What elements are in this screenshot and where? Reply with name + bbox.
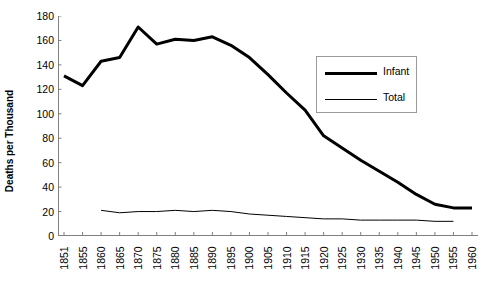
x-axis-tick-label-text: 1945 bbox=[410, 246, 422, 269]
x-axis-tick-label: 1910 bbox=[281, 238, 293, 282]
x-axis-tick-label-text: 1870 bbox=[132, 246, 144, 269]
x-axis-tick-label: 1935 bbox=[373, 238, 385, 282]
x-axis-tick-label-text: 1920 bbox=[318, 246, 330, 269]
y-axis-tick-label: 100 bbox=[26, 109, 54, 119]
legend-swatch-infant-icon bbox=[325, 72, 377, 75]
legend-item-total: Total bbox=[317, 87, 418, 111]
x-axis-tick-label-text: 1900 bbox=[243, 246, 255, 269]
y-axis-tick-label: 160 bbox=[26, 35, 54, 45]
x-axis-tick-label: 1925 bbox=[336, 238, 348, 282]
legend-item-infant: Infant bbox=[317, 61, 418, 85]
x-axis-tick-labels: 1851185518601865187018751880188518901895… bbox=[0, 238, 489, 282]
line-chart: Deaths per Thousand 02040608010012014016… bbox=[0, 0, 489, 282]
x-axis-tick-label-text: 1940 bbox=[392, 246, 404, 269]
x-axis-tick-label: 1930 bbox=[355, 238, 367, 282]
x-axis-tick-label: 1851 bbox=[58, 238, 70, 282]
y-axis-tick-label: 80 bbox=[26, 133, 54, 143]
x-axis-tick-label: 1855 bbox=[77, 238, 89, 282]
x-axis-tick-label-text: 1890 bbox=[206, 246, 218, 269]
x-axis-tick-label: 1950 bbox=[429, 238, 441, 282]
plot-area bbox=[58, 16, 478, 236]
x-axis-tick-label: 1915 bbox=[299, 238, 311, 282]
legend-label-total: Total bbox=[383, 91, 405, 103]
x-axis-tick-label-text: 1915 bbox=[299, 246, 311, 269]
y-axis-title-text: Deaths per Thousand bbox=[4, 90, 15, 192]
legend-swatch-total-icon bbox=[325, 99, 377, 100]
x-axis-tick-label: 1860 bbox=[95, 238, 107, 282]
x-axis-tick-label-text: 1855 bbox=[77, 246, 89, 269]
x-axis-tick-label-text: 1905 bbox=[262, 246, 274, 269]
x-axis-tick-label: 1900 bbox=[243, 238, 255, 282]
x-axis-tick-label-text: 1875 bbox=[151, 246, 163, 269]
x-axis-tick-label-text: 1851 bbox=[58, 246, 70, 269]
x-axis-tick-label-text: 1885 bbox=[188, 246, 200, 269]
x-axis-tick-label-text: 1950 bbox=[429, 246, 441, 269]
x-axis-tick-label: 1920 bbox=[318, 238, 330, 282]
x-axis-tick-label: 1955 bbox=[447, 238, 459, 282]
y-axis-tick-label: 40 bbox=[26, 182, 54, 192]
axis-lines bbox=[58, 16, 478, 236]
x-axis-tick-label: 1890 bbox=[206, 238, 218, 282]
x-axis-tick-label-text: 1930 bbox=[355, 246, 367, 269]
x-axis-tick-label: 1960 bbox=[466, 238, 478, 282]
x-axis-tick-label-text: 1960 bbox=[466, 246, 478, 269]
series-line-infant bbox=[64, 27, 472, 208]
y-axis-tick-label: 20 bbox=[26, 207, 54, 217]
x-axis-tick-label: 1865 bbox=[114, 238, 126, 282]
x-axis-tick-label-text: 1880 bbox=[169, 246, 181, 269]
plot-svg bbox=[58, 16, 478, 236]
x-axis-tick-label: 1885 bbox=[188, 238, 200, 282]
x-axis-tick-label: 1880 bbox=[169, 238, 181, 282]
x-axis-tick-label: 1875 bbox=[151, 238, 163, 282]
x-axis-tick-label-text: 1865 bbox=[114, 246, 126, 269]
chart-legend: Infant Total bbox=[316, 56, 417, 113]
legend-label-infant: Infant bbox=[383, 65, 409, 77]
x-axis-tick-label: 1940 bbox=[392, 238, 404, 282]
y-axis-tick-label: 140 bbox=[26, 60, 54, 70]
x-axis-tick-label: 1905 bbox=[262, 238, 274, 282]
x-axis-tick-label-text: 1860 bbox=[95, 246, 107, 269]
y-axis-tick-label: 120 bbox=[26, 84, 54, 94]
x-axis-tick-label-text: 1910 bbox=[281, 246, 293, 269]
x-axis-tick-label: 1945 bbox=[410, 238, 422, 282]
x-axis-tick-label-text: 1895 bbox=[225, 246, 237, 269]
series-line-total bbox=[101, 210, 453, 221]
y-axis-tick-label: 180 bbox=[26, 11, 54, 21]
x-axis-tick-label: 1895 bbox=[225, 238, 237, 282]
x-axis-tick-label: 1870 bbox=[132, 238, 144, 282]
x-axis-tick-label-text: 1955 bbox=[447, 246, 459, 269]
x-axis-tick-label-text: 1925 bbox=[336, 246, 348, 269]
y-axis-tick-label: 60 bbox=[26, 158, 54, 168]
x-axis-tick-label-text: 1935 bbox=[373, 246, 385, 269]
